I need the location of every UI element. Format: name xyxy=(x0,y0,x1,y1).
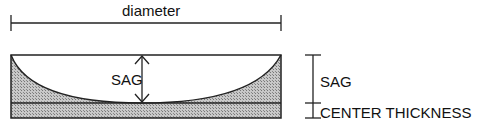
sag-inner-label: SAG xyxy=(111,71,143,88)
lens-cross-section xyxy=(11,55,281,118)
center-thickness-label: CENTER THICKNESS xyxy=(320,104,471,121)
diameter-label: diameter xyxy=(122,2,180,19)
sag-side-label: SAG xyxy=(320,73,352,90)
side-dimension-brackets xyxy=(305,55,321,118)
